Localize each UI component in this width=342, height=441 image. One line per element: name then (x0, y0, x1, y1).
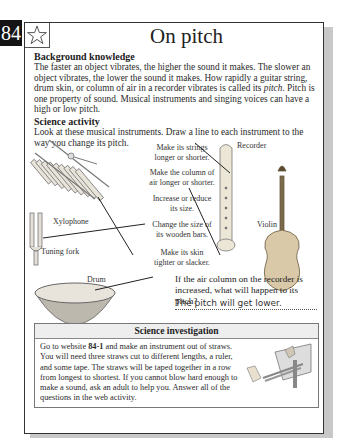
straws-illustration (245, 342, 315, 392)
investigation-text-part: and make an instrument out of straws. Yo… (40, 342, 237, 402)
method-size: Increase or reduceits size. (142, 194, 222, 214)
method-line: its wooden bars. (142, 230, 222, 240)
investigation-box: Science investigation Go to website 84-1… (34, 323, 319, 408)
violin-label: Violin (257, 220, 277, 229)
tuning-fork-label: Tuning fork (41, 247, 79, 256)
website-code: 84-1 (88, 342, 103, 351)
method-line: longer or shorter. (142, 153, 222, 163)
page-number-badge: 84 (0, 20, 22, 46)
method-line: its size. (142, 204, 222, 214)
investigation-text-part: Go to website (40, 342, 88, 351)
investigation-text: Go to website 84-1 and make an instrumen… (40, 342, 240, 404)
investigation-heading: Science investigation (35, 324, 318, 339)
method-air-column: Make the column ofair longer or shorter. (142, 168, 222, 188)
method-line: Increase or reduce (142, 194, 222, 204)
drum-label: Drum (87, 275, 106, 284)
xylophone-illustration (30, 140, 109, 201)
method-line: tighter or slacker. (142, 258, 222, 268)
method-line: air longer or shorter. (142, 178, 222, 188)
method-line: Make its skin (142, 248, 222, 258)
answer-field[interactable]: The pitch will get lower. (175, 297, 317, 310)
method-skin: Make its skintighter or slacker. (142, 248, 222, 268)
method-line: Change the size of (142, 220, 222, 230)
xylophone-label: Xylophone (53, 217, 89, 226)
method-line: Make its strings (142, 143, 222, 153)
method-line: Make the column of (142, 168, 222, 178)
tuning-fork-illustration (30, 213, 42, 265)
method-wooden-bars: Change the size ofits wooden bars. (142, 220, 222, 240)
method-strings: Make its stringslonger or shorter. (142, 143, 222, 163)
recorder-label: Recorder (237, 141, 266, 150)
worksheet-frame: On pitch Background knowledge The faster… (24, 22, 324, 434)
